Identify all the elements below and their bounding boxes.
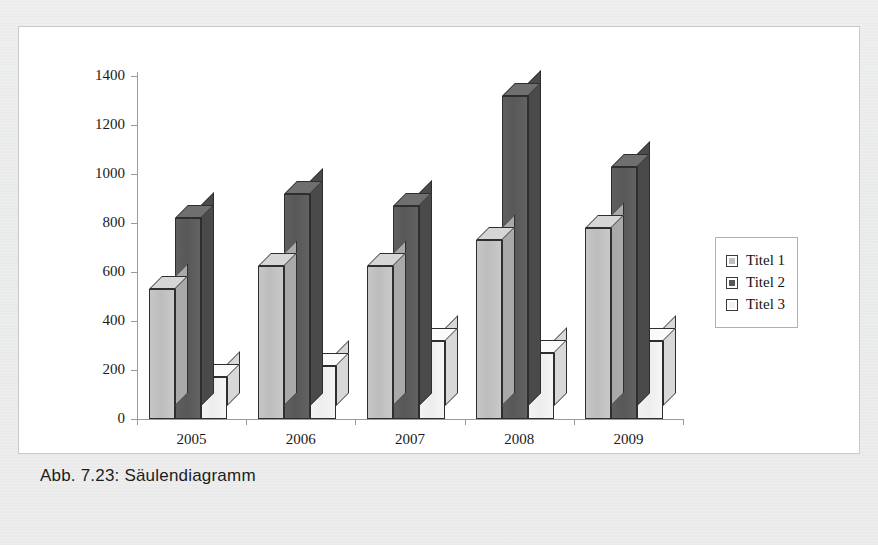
x-tick-mark [683,419,684,425]
bar-side-face [528,70,541,406]
y-tick-mark [131,76,137,77]
bar-side-face [284,240,297,406]
x-tick-mark [355,419,356,425]
legend-item-titel-3: Titel 3 [726,296,785,313]
legend-label-titel-3: Titel 3 [746,296,785,313]
y-tick-label: 0 [59,410,125,427]
legend-label-titel-1: Titel 1 [746,252,785,269]
bar-front-face [476,240,502,419]
y-tick-label: 200 [59,361,125,378]
bar-side-face [611,202,624,406]
y-tick-label: 1400 [59,67,125,84]
y-tick-mark [131,370,137,371]
series2-swatch-icon [726,277,738,289]
bar-2006-series-1 [258,266,284,419]
y-tick-label: 1200 [59,116,125,133]
x-tick-mark [465,419,466,425]
x-tick-label: 2005 [137,431,247,448]
bar-side-face [227,351,240,406]
figure-caption: Abb. 7.23: Säulendiagramm [40,466,256,486]
bar-2007-series-1 [367,266,393,419]
y-tick-mark [131,174,137,175]
y-tick-label: 800 [59,214,125,231]
x-tick-label: 2006 [246,431,356,448]
bar-side-face [201,192,214,406]
bar-front-face [367,266,393,419]
y-tick-label: 1000 [59,165,125,182]
chart-legend: Titel 1 Titel 2 Titel 3 [715,237,798,328]
x-tick-label: 2007 [355,431,465,448]
bar-side-face [310,168,323,406]
legend-label-titel-2: Titel 2 [746,274,785,291]
figure-container: 1400120010008006004002000 20052006200720… [18,26,860,496]
series3-swatch-icon [726,299,738,311]
bar-front-face [585,228,611,419]
y-tick-label: 400 [59,312,125,329]
chart-panel: 1400120010008006004002000 20052006200720… [18,26,860,454]
bar-2005-series-1 [149,289,175,419]
bar-front-face [258,266,284,419]
y-tick-label: 600 [59,263,125,280]
bar-side-face [336,340,349,406]
x-tick-mark [137,419,138,425]
x-tick-label: 2009 [573,431,683,448]
y-tick-mark [131,272,137,273]
bar-2008-series-1 [476,240,502,419]
x-tick-mark [246,419,247,425]
legend-item-titel-1: Titel 1 [726,252,785,269]
bar-side-face [554,327,567,406]
x-tick-label: 2008 [464,431,574,448]
bar-side-face [502,214,515,406]
y-tick-mark [131,321,137,322]
legend-item-titel-2: Titel 2 [726,274,785,291]
x-axis-line [137,419,683,420]
x-tick-mark [574,419,575,425]
bar-side-face [419,180,432,406]
bar-2009-series-1 [585,228,611,419]
bar-front-face [149,289,175,419]
caption-band: Abb. 7.23: Säulendiagramm [18,454,860,496]
bar-side-face [637,141,650,406]
y-axis-line [137,72,138,420]
y-tick-mark [131,223,137,224]
y-tick-mark [131,125,137,126]
bar-side-face [393,240,406,406]
series1-swatch-icon [726,255,738,267]
